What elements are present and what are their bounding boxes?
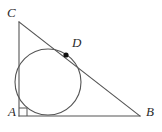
vertex-label-b: B bbox=[146, 105, 154, 118]
point-label-d: D bbox=[72, 36, 81, 49]
inscribed-circle bbox=[15, 49, 81, 115]
tangency-point-d-dot bbox=[63, 52, 68, 57]
vertex-label-c: C bbox=[7, 6, 16, 19]
geometry-figure: A B C D bbox=[0, 0, 162, 132]
vertex-label-a: A bbox=[8, 105, 16, 118]
geometry-canvas bbox=[0, 0, 162, 132]
right-angle-marker-icon bbox=[19, 108, 27, 116]
